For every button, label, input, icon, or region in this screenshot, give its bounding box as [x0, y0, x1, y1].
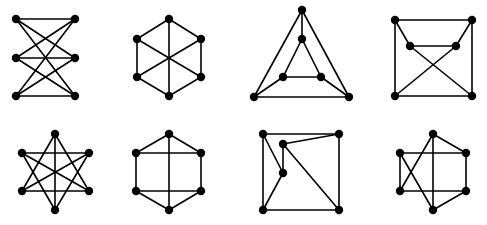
graph-node	[12, 54, 20, 62]
graph-node	[279, 140, 287, 148]
graph-edge	[433, 191, 466, 210]
graph-edge	[395, 20, 410, 46]
graph-node	[132, 187, 140, 195]
graph-node	[468, 92, 476, 100]
graph-7-square-inner	[259, 130, 343, 214]
graph-node	[259, 206, 267, 214]
graph-edge	[456, 20, 472, 46]
graph-node	[165, 130, 173, 138]
graph-node	[317, 73, 325, 81]
graph-edge	[169, 134, 201, 153]
graph-edge	[169, 19, 201, 39]
graph-node	[335, 130, 343, 138]
graph-node	[71, 15, 79, 23]
graph-node	[429, 130, 437, 138]
graph-node	[462, 149, 470, 157]
graph-node	[468, 16, 476, 24]
graph-edge	[263, 173, 283, 210]
graph-node	[197, 187, 205, 195]
graph-edge	[433, 134, 466, 153]
graph-node	[133, 73, 141, 81]
graph-node	[132, 149, 140, 157]
graph-node	[406, 42, 414, 50]
graph-edge	[169, 77, 201, 96]
graph-edge	[283, 144, 339, 210]
graph-figure	[0, 0, 487, 225]
graph-edge	[137, 77, 169, 96]
graph-edge	[302, 39, 321, 77]
graph-node	[197, 149, 205, 157]
graph-node	[71, 92, 79, 100]
graph-edge	[137, 19, 169, 39]
graph-node	[133, 35, 141, 43]
graph-node	[279, 169, 287, 177]
graph-node	[197, 35, 205, 43]
graph-edge	[395, 46, 456, 96]
graph-node	[250, 93, 258, 101]
graph-node	[165, 206, 173, 214]
graph-5-star	[18, 130, 93, 214]
graph-node	[165, 15, 173, 23]
graph-edge	[169, 191, 201, 210]
graph-node	[197, 73, 205, 81]
graph-node	[396, 149, 404, 157]
graph-node	[18, 187, 26, 195]
graph-node	[298, 35, 306, 43]
graph-node	[279, 73, 287, 81]
graph-2-hexagon-diagonals	[133, 15, 205, 100]
graph-node	[71, 54, 79, 62]
graph-edge	[283, 134, 339, 144]
graph-node	[51, 130, 59, 138]
graph-node	[391, 16, 399, 24]
graph-4-square-crossed	[391, 16, 476, 100]
graph-node	[12, 92, 20, 100]
graph-node	[429, 206, 437, 214]
graph-edge	[283, 39, 302, 77]
graph-node	[298, 6, 306, 14]
graph-node	[12, 15, 20, 23]
graph-edge	[410, 46, 472, 96]
graph-node	[452, 42, 460, 50]
graph-6-hexagon-grid	[132, 130, 205, 214]
graph-node	[345, 93, 353, 101]
graph-node	[259, 130, 267, 138]
graph-node	[165, 92, 173, 100]
graph-1-k33	[12, 15, 79, 100]
graph-3-prism-triangles	[250, 6, 353, 101]
graph-node	[18, 149, 26, 157]
graph-node	[335, 206, 343, 214]
graph-node	[391, 92, 399, 100]
graph-node	[85, 187, 93, 195]
graph-8-hexagon-crossed	[396, 130, 470, 214]
graph-edge	[136, 134, 169, 153]
graph-edge	[136, 191, 169, 210]
graph-edge	[321, 77, 349, 97]
graph-node	[396, 187, 404, 195]
graph-edge	[254, 77, 283, 97]
graph-node	[462, 187, 470, 195]
graph-node	[85, 149, 93, 157]
graph-edge	[263, 134, 283, 173]
graph-node	[51, 206, 59, 214]
